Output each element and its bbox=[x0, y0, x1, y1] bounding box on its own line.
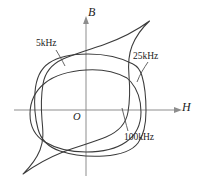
annotation-leaders bbox=[56, 50, 148, 131]
b-axis-label: B bbox=[88, 6, 95, 18]
h-axis-label: H bbox=[182, 101, 191, 113]
annotation-label-25khz: 25kHz bbox=[133, 52, 158, 62]
origin-label: O bbox=[73, 112, 81, 123]
figure-canvas bbox=[0, 0, 199, 192]
annotation-label-5khz: 5kHz bbox=[36, 39, 57, 49]
bh-hysteresis-figure: B H O 5kHz 25kHz 100kHz bbox=[0, 0, 199, 192]
leader-100khz bbox=[122, 108, 128, 131]
h-axis-arrow-icon bbox=[174, 107, 182, 113]
annotation-label-100khz: 100kHz bbox=[124, 133, 154, 143]
leader-5khz bbox=[56, 50, 65, 66]
